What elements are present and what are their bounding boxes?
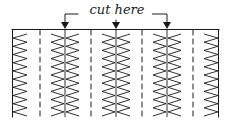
cut-here-label: cut here bbox=[82, 2, 152, 18]
zigzag-left-half bbox=[51, 34, 64, 116]
zigzag-left-half bbox=[153, 34, 166, 116]
diagram-canvas bbox=[0, 0, 227, 131]
zigzag-stitches bbox=[13, 30, 218, 117]
zigzag-right-half bbox=[66, 34, 79, 116]
zigzag-partial-left bbox=[13, 34, 27, 116]
zigzag-partial-right bbox=[204, 34, 218, 116]
cut-arrow-heads bbox=[61, 22, 171, 29]
arrow-down-icon bbox=[163, 22, 171, 29]
zigzag-right-half bbox=[168, 34, 181, 116]
zigzag-right-half bbox=[117, 34, 130, 116]
zigzag-left-half bbox=[102, 34, 115, 116]
arrow-down-icon bbox=[112, 22, 120, 29]
arrow-down-icon bbox=[61, 22, 69, 29]
